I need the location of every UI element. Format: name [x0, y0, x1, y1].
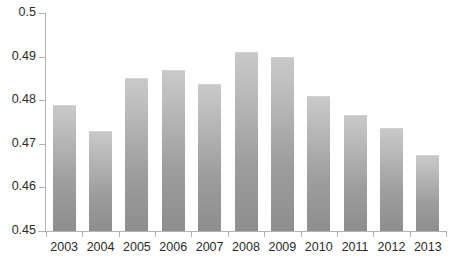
- x-axis-tick-label: 2005: [117, 241, 157, 254]
- x-axis-tick-label: 2007: [190, 241, 230, 254]
- x-axis-tick-label: 2004: [81, 241, 121, 254]
- bar: [198, 84, 221, 231]
- bar: [271, 57, 294, 231]
- x-axis-tick-mark: [264, 232, 265, 237]
- x-axis-tick-mark: [373, 232, 374, 237]
- bar: [162, 70, 185, 231]
- x-axis-tick-mark: [410, 232, 411, 237]
- x-axis-tick-mark: [337, 232, 338, 237]
- bar: [307, 96, 330, 231]
- x-axis-tick-mark: [301, 232, 302, 237]
- bar: [380, 128, 403, 231]
- x-axis-tick-mark: [446, 232, 447, 237]
- x-axis-tick-label: 2012: [371, 241, 411, 254]
- bar: [89, 131, 112, 231]
- x-axis-tick-label: 2009: [262, 241, 302, 254]
- y-axis-tick-label: 0.5: [0, 6, 36, 19]
- y-axis-tick-mark: [39, 57, 46, 58]
- plot-area: [46, 13, 446, 231]
- y-axis-tick-mark: [39, 13, 46, 14]
- x-axis-tick-label: 2003: [44, 241, 84, 254]
- bar: [416, 155, 439, 231]
- y-axis-tick-mark: [39, 100, 46, 101]
- y-axis-tick-mark: [39, 187, 46, 188]
- y-axis-tick-label: 0.48: [0, 93, 36, 106]
- x-axis-tick-label: 2013: [408, 241, 448, 254]
- x-axis-tick-mark: [82, 232, 83, 237]
- x-axis-tick-label: 2010: [299, 241, 339, 254]
- x-axis-tick-label: 2008: [226, 241, 266, 254]
- x-axis-line: [38, 231, 447, 232]
- y-axis-tick-label: 0.45: [0, 224, 36, 237]
- bar: [125, 78, 148, 231]
- y-axis-tick-mark: [39, 231, 46, 232]
- bar: [235, 52, 258, 231]
- bar: [344, 115, 367, 231]
- x-axis-tick-mark: [119, 232, 120, 237]
- bar: [53, 105, 76, 231]
- y-axis-tick-label: 0.47: [0, 137, 36, 150]
- bar-chart: 0.450.460.470.480.490.5 2003200420052006…: [0, 0, 453, 268]
- x-axis-tick-mark: [46, 232, 47, 237]
- y-axis-tick-label: 0.46: [0, 180, 36, 193]
- x-axis-tick-mark: [228, 232, 229, 237]
- y-axis-tick-mark: [39, 144, 46, 145]
- x-axis-tick-mark: [155, 232, 156, 237]
- y-axis-tick-label: 0.49: [0, 50, 36, 63]
- x-axis-tick-label: 2011: [335, 241, 375, 254]
- x-axis-tick-label: 2006: [153, 241, 193, 254]
- x-axis-tick-mark: [191, 232, 192, 237]
